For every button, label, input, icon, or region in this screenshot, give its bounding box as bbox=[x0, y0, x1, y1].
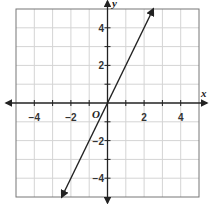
y-tick-label: 2 bbox=[98, 60, 104, 71]
y-tick-label: −2 bbox=[93, 136, 105, 147]
x-tick-label: 2 bbox=[141, 112, 147, 123]
y-tick-label: −4 bbox=[93, 173, 105, 184]
x-tick-label: 4 bbox=[178, 112, 184, 123]
x-axis-label: x bbox=[200, 87, 207, 99]
y-tick-label: 4 bbox=[98, 23, 104, 34]
y-axis-label: y bbox=[110, 0, 117, 9]
x-tick-label: −4 bbox=[29, 112, 41, 123]
x-tick-label: −2 bbox=[65, 112, 77, 123]
coordinate-plane: −4−22442−2−4 x y O bbox=[0, 0, 211, 204]
origin-label: O bbox=[92, 108, 100, 120]
